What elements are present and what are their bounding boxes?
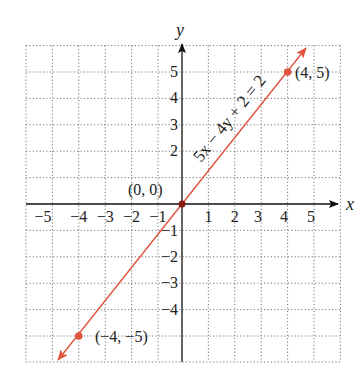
svg-text:−5: −5 bbox=[34, 208, 51, 225]
svg-text:4: 4 bbox=[280, 208, 288, 225]
y-axis-label: y bbox=[174, 20, 184, 40]
point-neg4-neg5 bbox=[75, 332, 83, 340]
svg-text:−3: −3 bbox=[161, 274, 178, 291]
svg-text:2: 2 bbox=[231, 208, 239, 225]
svg-text:−4: −4 bbox=[161, 301, 178, 318]
svg-text:2: 2 bbox=[170, 142, 178, 159]
svg-text:4: 4 bbox=[170, 89, 178, 106]
svg-text:1: 1 bbox=[204, 208, 212, 225]
svg-text:5: 5 bbox=[170, 63, 178, 80]
label-origin: (0, 0) bbox=[128, 181, 163, 199]
x-axis-label: x bbox=[345, 194, 354, 214]
label-point-neg4-neg5: (−4, −5) bbox=[95, 328, 148, 346]
coordinate-plane: x y −5 −4 −3 −2 −1 1 2 3 4 5 5 4 3 2 −1 … bbox=[0, 0, 364, 374]
svg-text:3: 3 bbox=[254, 208, 262, 225]
svg-text:5: 5 bbox=[307, 208, 315, 225]
svg-text:−1: −1 bbox=[161, 222, 178, 239]
y-tick-labels: 5 4 3 2 −1 −2 −3 −4 bbox=[161, 63, 178, 318]
point-4-5 bbox=[284, 68, 292, 76]
svg-text:−4: −4 bbox=[70, 208, 87, 225]
svg-text:−2: −2 bbox=[161, 248, 178, 265]
svg-text:−2: −2 bbox=[123, 208, 140, 225]
svg-text:−3: −3 bbox=[97, 208, 114, 225]
point-origin bbox=[179, 201, 186, 208]
label-point-4-5: (4, 5) bbox=[295, 64, 330, 82]
svg-text:3: 3 bbox=[170, 116, 178, 133]
